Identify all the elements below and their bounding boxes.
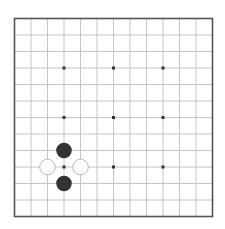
white-stone[interactable] bbox=[73, 159, 89, 175]
white-stone[interactable] bbox=[40, 159, 56, 175]
star-point-icon bbox=[112, 166, 115, 169]
go-board[interactable] bbox=[0, 0, 225, 229]
star-point-icon bbox=[162, 166, 165, 169]
star-point-icon bbox=[63, 116, 66, 119]
star-point-icon bbox=[112, 116, 115, 119]
star-point-icon bbox=[63, 67, 66, 70]
star-point-icon bbox=[112, 67, 115, 70]
star-point-icon bbox=[63, 166, 66, 169]
star-point-icon bbox=[162, 67, 165, 70]
black-stone[interactable] bbox=[56, 176, 72, 192]
star-point-icon bbox=[162, 116, 165, 119]
black-stone[interactable] bbox=[56, 143, 72, 159]
